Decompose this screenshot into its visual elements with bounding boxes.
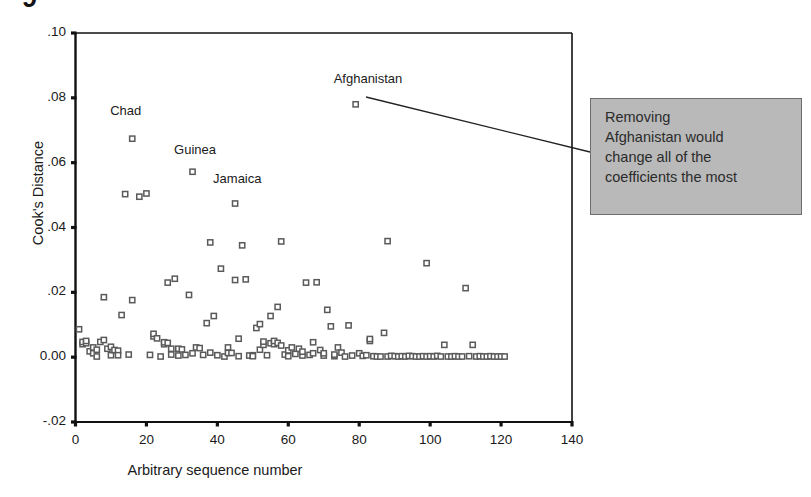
x-tick-label: 100 [405,432,455,447]
annotation-leader-line [366,97,590,152]
annotation-line-3: coefficients the most [605,167,801,187]
y-tick-label: .10 [18,24,66,39]
y-tick-label: .02 [18,283,66,298]
data-points [76,102,507,359]
x-tick-label: 20 [121,432,171,447]
x-tick-label: 60 [263,432,313,447]
data-point-label: Chad [110,103,141,118]
y-tick-label: 0.00 [18,348,66,363]
annotation-line-0: Removing [605,107,801,127]
axis-ticks [71,33,572,427]
plot-frame [76,33,573,422]
data-point-label: Guinea [174,142,216,157]
figure-canvas: 9 Cook's Distance Arbitrary sequence num… [0,0,811,497]
annotation-line-1: Afghanistan would [605,127,801,147]
data-point-label: Afghanistan [334,71,403,86]
x-tick-label: 120 [476,432,526,447]
scatter-plot [0,0,811,497]
y-axis-title: Cook's Distance [30,113,46,273]
x-tick-label: 0 [51,432,101,447]
y-tick-label: .08 [18,89,66,104]
annotation-line-2: change all of the [605,147,801,167]
x-tick-label: 40 [192,432,242,447]
x-axis-title: Arbitrary sequence number [75,462,355,478]
annotation-callout-box: RemovingAfghanistan wouldchange all of t… [590,98,802,215]
y-tick-label: -.02 [18,413,66,428]
y-tick-label: .06 [18,154,66,169]
x-tick-label: 140 [547,432,597,447]
y-tick-label: .04 [18,219,66,234]
x-tick-label: 80 [334,432,384,447]
data-point-label: Jamaica [213,171,261,186]
